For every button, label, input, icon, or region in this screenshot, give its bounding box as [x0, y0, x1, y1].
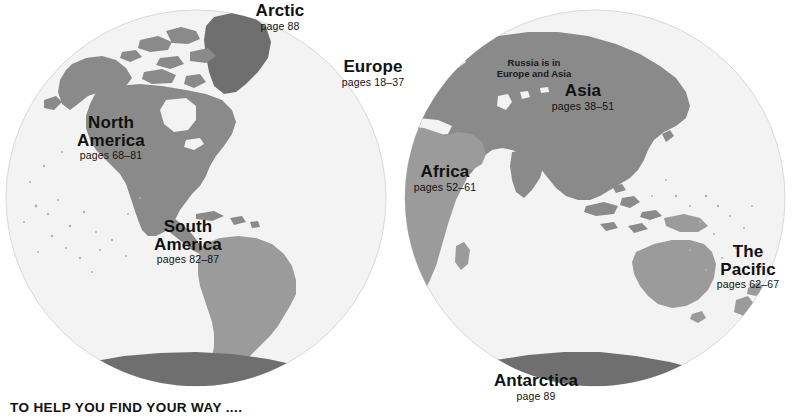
world-map-figure: Arctic page 88 North America pages 68–81… [0, 0, 798, 420]
label-north-america-pages: pages 68–81 [36, 150, 186, 161]
label-europe-pages: pages 18–37 [318, 77, 428, 88]
label-south-america-name-line1: South [118, 218, 258, 236]
label-africa: Africa pages 52–61 [390, 163, 500, 193]
annotation-russia-line2: Europe and Asia [497, 68, 572, 79]
label-antarctica-name: Antarctica [472, 372, 600, 390]
label-south-america: South America pages 82–87 [118, 218, 258, 265]
label-europe-name: Europe [318, 58, 428, 76]
label-africa-name: Africa [390, 163, 500, 181]
label-north-america-name-line1: North [36, 114, 186, 132]
annotation-russia: Russia is in Europe and Asia [468, 57, 600, 79]
page-caption: TO HELP YOU FIND YOUR WAY .... [10, 400, 242, 415]
label-north-america-name-line2: America [36, 132, 186, 150]
label-south-america-name-line2: America [118, 236, 258, 254]
label-africa-pages: pages 52–61 [390, 182, 500, 193]
label-asia: Asia pages 38–51 [528, 82, 638, 112]
label-pacific-pages: pages 62–67 [702, 279, 794, 290]
label-pacific-name-line2: Pacific [702, 261, 794, 279]
label-europe: Europe pages 18–37 [318, 58, 428, 88]
label-arctic-name: Arctic [215, 2, 345, 20]
label-pacific: The Pacific pages 62–67 [702, 243, 794, 290]
label-antarctica-pages: page 89 [472, 391, 600, 402]
label-arctic: Arctic page 88 [215, 2, 345, 32]
label-north-america: North America pages 68–81 [36, 114, 186, 161]
annotation-russia-line1: Russia is in [508, 57, 561, 68]
label-asia-name: Asia [528, 82, 638, 100]
label-asia-pages: pages 38–51 [528, 101, 638, 112]
label-arctic-pages: page 88 [215, 21, 345, 32]
label-antarctica: Antarctica page 89 [472, 372, 600, 402]
label-pacific-name-line1: The [702, 243, 794, 261]
label-south-america-pages: pages 82–87 [118, 254, 258, 265]
